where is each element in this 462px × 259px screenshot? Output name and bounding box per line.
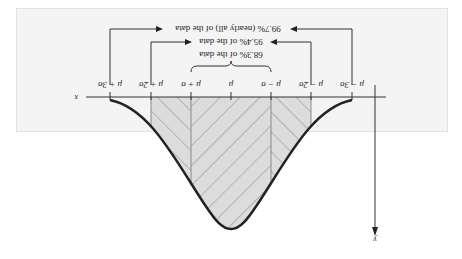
interval-99-label: 99.7% (nearly all) of the data [175, 24, 280, 34]
arrow-right-icon [270, 39, 277, 45]
brace-68 [191, 61, 271, 72]
x-axis-label: x [74, 93, 79, 102]
tick-marks [110, 92, 352, 100]
y-axis-arrow-icon [372, 227, 378, 236]
tick-label: μ [228, 80, 234, 90]
shaded-area [151, 97, 311, 240]
arrow-left-icon [156, 26, 163, 32]
tick-label: μ − σ [261, 80, 282, 90]
interval-68-label: 68.3% of the data [199, 50, 262, 60]
y-axis-label: y [373, 235, 378, 244]
interval-95-label: 95.4% of the data [199, 37, 262, 47]
arrow-left-icon [185, 39, 192, 45]
arrow-right-icon [290, 26, 297, 32]
tick-label: μ + σ [181, 80, 202, 90]
normal-distribution-figure: x y μ − 3σ μ − 2σ μ − σ μ μ + σ μ + 2σ μ… [0, 0, 462, 259]
